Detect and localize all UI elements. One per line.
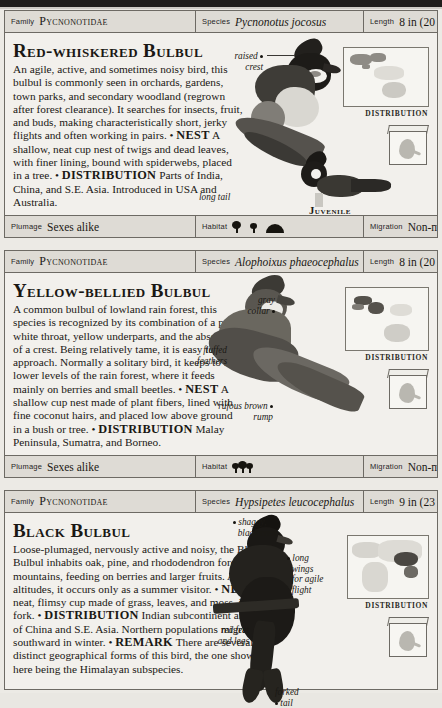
distribution-label: DISTRIBUTION	[44, 608, 139, 622]
species-cell: Species Alophoixus phaeocephalus	[195, 251, 363, 272]
family-label: Family	[11, 17, 34, 26]
plumage-cell: Plumage Sexes alike	[5, 456, 195, 477]
plumage-cell: Plumage Sexes alike	[5, 216, 195, 237]
callout-dot	[275, 702, 278, 705]
callout-red-feet-and-legs: red feetand legs	[179, 625, 249, 646]
callout-rufous-brown-rump: rufous brown rump	[187, 401, 273, 422]
illustration-area: shaggy, black crest long wings for agile…	[231, 513, 437, 689]
habitat-icons	[232, 220, 284, 233]
length-cell: Length 9 in (23 cm)	[363, 491, 437, 512]
distribution-map	[345, 287, 429, 351]
callout-forked-tail: forked tail	[275, 687, 337, 708]
callout-long-wings: long wings for agile flight	[287, 553, 339, 595]
species-label: Species	[202, 17, 230, 26]
distribution-bullet: •	[55, 169, 62, 181]
habitat-label: Habitat	[202, 462, 227, 471]
plumage-label: Plumage	[11, 462, 42, 471]
remark-label: REMARK	[115, 635, 173, 649]
callout-raised-crest: raised crest	[207, 51, 263, 72]
migration-label: Migration	[370, 222, 403, 231]
map-caption: DISTRIBUTION	[365, 109, 428, 118]
species-value: Alophoixus phaeocephalus	[235, 256, 359, 268]
plumage-value: Sexes alike	[47, 461, 99, 473]
species-value: Pycnonotus jocosus	[235, 16, 326, 28]
tree-icon	[250, 223, 257, 233]
entry-footer-row: Plumage Sexes alike Habitat Migration No…	[5, 215, 437, 237]
family-cell: Family Pycnonotidae	[5, 11, 195, 32]
species-entry-black-bulbul: Family Pycnonotidae Species Hypsipetes l…	[4, 490, 438, 690]
nest-book-icon	[387, 369, 427, 409]
nest-book-icon	[387, 617, 427, 657]
length-cell: Length 8 in (20 cm)	[363, 11, 437, 32]
callout-dot	[272, 310, 275, 313]
book-bird-silhouette	[399, 139, 415, 159]
family-value: Pycnonotidae	[39, 494, 108, 509]
habitat-label: Habitat	[202, 222, 227, 231]
distribution-label: DISTRIBUTION	[98, 422, 193, 436]
habitat-icons	[232, 460, 252, 473]
migration-label: Migration	[370, 462, 403, 471]
length-label: Length	[370, 257, 394, 266]
callout-dot	[233, 521, 236, 524]
species-value: Hypsipetes leucocephalus	[235, 496, 354, 508]
plumage-value: Sexes alike	[47, 221, 99, 233]
species-entry-red-whiskered-bulbul: Family Pycnonotidae Species Pycnonotus j…	[4, 10, 438, 238]
tree-icon	[232, 221, 241, 233]
plumage-label: Plumage	[11, 222, 42, 231]
bird-illustration-juvenile	[295, 153, 391, 213]
length-label: Length	[370, 497, 394, 506]
length-value: 8 in (20 cm)	[399, 16, 437, 28]
species-label: Species	[202, 257, 230, 266]
callout-shaggy-black-crest: shaggy, black crest	[233, 517, 313, 538]
migration-cell: Migration Non-migrant	[363, 456, 437, 477]
habitat-cell: Habitat	[195, 216, 363, 237]
distribution-map	[343, 47, 429, 107]
callout-gray-collar: graycollar	[213, 295, 275, 316]
entry-body: Red-whiskered Bulbul An agile, active, a…	[5, 33, 437, 215]
illustration-area: graycollar fluffedfeathers rufous brown …	[231, 273, 437, 455]
family-label: Family	[11, 257, 34, 266]
length-value: 8 in (20 cm)	[399, 256, 437, 268]
family-cell: Family Pycnonotidae	[5, 251, 195, 272]
book-bird-silhouette	[399, 383, 415, 403]
entry-body: Yellow-bellied Bulbul A common bulbul of…	[5, 273, 437, 455]
migration-value: Non-migrant	[408, 461, 437, 473]
illustration-area: raised crest long tail Juvenile DISTRIBU…	[231, 33, 437, 215]
nest-label: NEST	[176, 128, 209, 142]
migration-cell: Migration Non-migrant	[363, 216, 437, 237]
entry-header-row: Family Pycnonotidae Species Hypsipetes l…	[5, 491, 437, 513]
entry-footer-row: Plumage Sexes alike Habitat Migration No…	[5, 455, 437, 477]
tree-icon	[246, 463, 253, 473]
family-label: Family	[11, 497, 34, 506]
book-bird-silhouette	[399, 631, 415, 651]
species-label: Species	[202, 497, 230, 506]
family-value: Pycnonotidae	[39, 254, 108, 269]
species-entry-yellow-bellied-bulbul: Family Pycnonotidae Species Alophoixus p…	[4, 250, 438, 478]
length-label: Length	[370, 17, 394, 26]
family-value: Pycnonotidae	[39, 14, 108, 29]
map-caption: DISTRIBUTION	[365, 601, 428, 610]
page-top-rule-secondary	[0, 7, 442, 9]
callout-long-tail: long tail	[199, 192, 259, 203]
hill-icon	[266, 224, 284, 233]
length-value: 9 in (23 cm)	[399, 496, 437, 508]
callout-leader-line	[267, 55, 295, 56]
callout-dot	[287, 557, 290, 560]
distribution-label: DISTRIBUTION	[62, 168, 157, 182]
length-cell: Length 8 in (20 cm)	[363, 251, 437, 272]
species-cell: Species Pycnonotus jocosus	[195, 11, 363, 32]
nest-book-icon	[387, 125, 427, 165]
map-caption: DISTRIBUTION	[365, 353, 428, 362]
bird-illustration-adult	[203, 517, 353, 707]
page-top-rule	[0, 0, 442, 7]
migration-value: Non-migrant	[408, 221, 437, 233]
habitat-cell: Habitat	[195, 456, 363, 477]
callout-dot	[260, 55, 263, 58]
forest-icon	[232, 461, 252, 473]
callout-dot	[270, 405, 273, 408]
entry-header-row: Family Pycnonotidae Species Pycnonotus j…	[5, 11, 437, 33]
distribution-map	[347, 535, 429, 599]
family-cell: Family Pycnonotidae	[5, 491, 195, 512]
entry-header-row: Family Pycnonotidae Species Alophoixus p…	[5, 251, 437, 273]
